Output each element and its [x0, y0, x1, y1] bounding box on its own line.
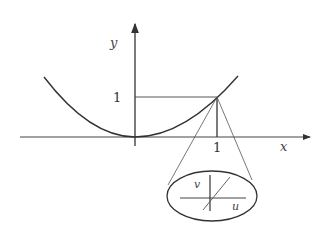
diagram-svg: y x 1 1 v u: [0, 0, 326, 232]
parabola-tangent-diagram: y x 1 1 v u: [0, 0, 326, 232]
magnified-view-ellipse: [167, 171, 257, 221]
parabola-curve: [44, 76, 238, 137]
y-tick-label: 1: [113, 90, 121, 105]
x-axis-label: x: [280, 139, 288, 154]
projection-line-right: [217, 97, 252, 180]
v-label: v: [194, 178, 201, 191]
u-label: u: [232, 200, 239, 213]
y-axis-label: y: [109, 35, 118, 50]
x-tick-label: 1: [213, 140, 221, 155]
